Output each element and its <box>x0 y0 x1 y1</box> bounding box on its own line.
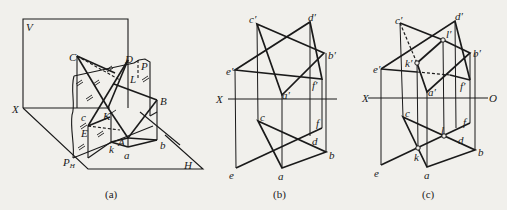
label-o: O <box>489 93 497 104</box>
label-f-prime: f′ <box>312 80 317 91</box>
p-plane-left-edge <box>72 76 74 158</box>
label-a: a <box>278 171 284 182</box>
label-E: E <box>81 128 88 139</box>
label-b: b <box>329 150 335 161</box>
label-k: k <box>109 144 114 155</box>
label-a: a <box>424 170 430 181</box>
point-l-prime <box>441 38 445 42</box>
label-D: D <box>125 54 133 65</box>
label-e: e <box>229 170 234 181</box>
caption-c: (c) <box>422 189 434 200</box>
label-c-prime: c′ <box>395 15 402 26</box>
caption-b: (b) <box>273 189 286 200</box>
label-B: B <box>160 96 167 107</box>
label-c-prime: c′ <box>249 14 256 25</box>
label-x: X <box>216 94 223 105</box>
label-p-h: PH <box>63 157 75 170</box>
label-v-plane: V <box>26 22 33 33</box>
caption-a: (a) <box>105 189 117 200</box>
label-c: c <box>81 112 86 123</box>
h-plane-outline <box>23 108 203 169</box>
label-l: l <box>441 125 444 136</box>
label-P: P <box>141 61 148 72</box>
label-b-prime: b′ <box>473 48 481 59</box>
label-L: L <box>130 74 136 85</box>
label-h-plane: H <box>184 160 192 171</box>
label-e-prime: e′ <box>373 64 380 75</box>
label-d: d <box>458 135 464 146</box>
figure-canvas: V X C D P L B c K E A k a b PH H (a) c′ … <box>0 0 507 210</box>
label-d-prime: d′ <box>308 12 316 23</box>
label-l-prime: l′ <box>446 29 451 40</box>
label-C: C <box>69 52 76 63</box>
label-b: b <box>160 140 166 151</box>
label-d-prime: d′ <box>455 11 463 22</box>
label-x: X <box>362 93 369 104</box>
label-c: c <box>260 112 265 123</box>
label-f: f <box>463 117 466 128</box>
line-ef-h <box>381 123 470 165</box>
label-d: d <box>312 136 318 147</box>
label-a-prime: a′ <box>282 90 290 101</box>
point-k <box>416 146 420 150</box>
label-b-prime: b′ <box>328 50 336 61</box>
label-x: X <box>12 104 19 115</box>
label-A: A <box>118 137 125 148</box>
label-b: b <box>478 147 484 158</box>
triangle-def-v <box>235 22 322 79</box>
label-e: e <box>374 168 379 179</box>
label-f-prime: f′ <box>460 81 465 92</box>
label-a-prime: a′ <box>428 87 436 98</box>
label-k: k <box>414 152 419 163</box>
label-c: c <box>405 108 410 119</box>
label-a: a <box>124 150 130 161</box>
label-k-prime: k′ <box>405 58 412 69</box>
v-plane-outline <box>23 19 128 108</box>
label-K: K <box>103 111 110 122</box>
label-e-prime: e′ <box>226 66 233 77</box>
point-k-prime <box>415 61 419 65</box>
panel-a-drawing <box>0 0 507 210</box>
label-f: f <box>316 118 319 129</box>
